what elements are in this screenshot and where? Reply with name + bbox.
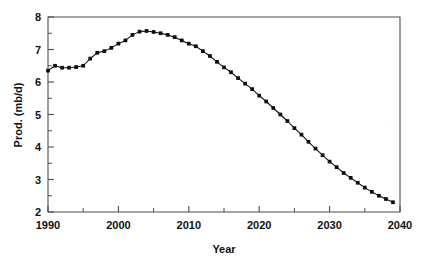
data-point-marker: [166, 33, 170, 37]
data-point-marker: [124, 39, 128, 43]
chart-background: [0, 0, 434, 269]
x-tick-label: 2000: [106, 219, 130, 231]
data-point-marker: [229, 70, 233, 74]
data-point-marker: [215, 60, 219, 64]
data-point-marker: [321, 153, 325, 157]
data-point-marker: [264, 100, 268, 104]
data-point-marker: [377, 194, 381, 198]
data-point-marker: [363, 186, 367, 190]
data-point-marker: [67, 66, 71, 70]
data-point-marker: [243, 82, 247, 86]
data-point-marker: [110, 46, 114, 50]
chart-figure: 2345678 199020002010202020302040 Year Pr…: [0, 0, 434, 269]
y-tick-label: 7: [35, 44, 41, 56]
data-point-marker: [222, 66, 226, 70]
data-point-marker: [187, 42, 191, 46]
x-tick-label: 2030: [317, 219, 341, 231]
data-point-marker: [328, 160, 332, 164]
data-point-marker: [391, 200, 395, 204]
x-tick-label: 2020: [247, 219, 271, 231]
data-point-marker: [117, 42, 121, 46]
data-point-marker: [46, 69, 50, 73]
data-point-marker: [286, 119, 290, 123]
data-point-marker: [88, 57, 92, 61]
data-point-marker: [314, 147, 318, 151]
data-point-marker: [300, 133, 304, 137]
x-tick-label: 2010: [177, 219, 201, 231]
x-tick-label: 1990: [36, 219, 60, 231]
data-point-marker: [81, 64, 85, 68]
data-point-marker: [250, 87, 254, 91]
data-point-marker: [342, 171, 346, 175]
data-point-marker: [159, 31, 163, 35]
data-point-marker: [194, 44, 198, 48]
data-point-marker: [180, 39, 184, 43]
y-tick-label: 6: [35, 76, 41, 88]
data-point-marker: [102, 49, 106, 53]
y-tick-label: 2: [35, 206, 41, 218]
data-point-marker: [356, 181, 360, 185]
data-point-marker: [236, 76, 240, 80]
data-point-marker: [173, 35, 177, 39]
production-line-chart: 2345678 199020002010202020302040 Year Pr…: [0, 0, 434, 269]
data-point-marker: [145, 29, 149, 33]
data-point-marker: [95, 51, 99, 55]
data-point-marker: [131, 33, 135, 37]
data-point-marker: [60, 66, 64, 70]
data-point-marker: [53, 64, 57, 68]
data-point-marker: [293, 126, 297, 130]
x-axis-title: Year: [212, 243, 236, 255]
data-point-marker: [257, 94, 261, 98]
data-point-marker: [349, 176, 353, 180]
data-point-marker: [138, 30, 142, 34]
data-point-marker: [335, 165, 339, 169]
data-point-marker: [74, 65, 78, 69]
data-point-marker: [271, 106, 275, 110]
y-tick-label: 8: [35, 11, 41, 23]
data-point-marker: [384, 197, 388, 201]
y-tick-label: 3: [35, 174, 41, 186]
data-point-marker: [278, 113, 282, 117]
data-point-marker: [307, 140, 311, 144]
data-point-marker: [370, 190, 374, 194]
y-axis-title: Prod. (mb/d): [12, 82, 24, 147]
x-tick-label: 2040: [388, 219, 412, 231]
data-point-marker: [201, 49, 205, 53]
y-tick-label: 4: [35, 141, 42, 153]
y-tick-label: 5: [35, 109, 41, 121]
data-point-marker: [208, 54, 212, 58]
data-point-marker: [152, 30, 156, 34]
